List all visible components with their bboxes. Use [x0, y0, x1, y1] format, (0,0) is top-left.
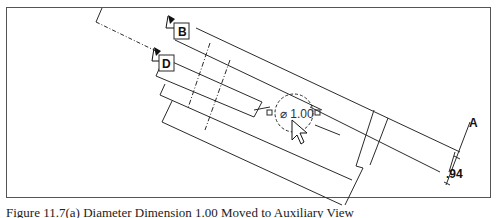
- figure-caption: Figure 11.7(a) Diameter Dimension 1.00 M…: [6, 206, 354, 218]
- step-edge: [345, 110, 374, 205]
- boss-bottom: [156, 76, 254, 117]
- callout-label-d: D: [162, 57, 171, 71]
- diameter-dimension-text[interactable]: ⌀ 1.00: [280, 107, 314, 121]
- center-line-1: [188, 43, 210, 108]
- body-upper-edge: [175, 40, 322, 110]
- section-label-a: A: [469, 116, 478, 130]
- construction-line: [96, 8, 102, 22]
- projection-line: [96, 22, 158, 52]
- centerline-right: [310, 107, 440, 172]
- boss-top: [168, 60, 262, 102]
- center-line-2: [205, 60, 230, 130]
- body-lower-edge: [160, 95, 352, 180]
- grip-handle-left[interactable]: [267, 110, 272, 115]
- callout-flags: [152, 15, 175, 61]
- auxiliary-view-drawing: B D ⌀ 1.00 .94 A: [0, 0, 498, 218]
- linear-dimension-text[interactable]: .94: [446, 167, 463, 181]
- mouse-cursor-icon: [292, 120, 307, 144]
- callout-label-b: B: [178, 25, 187, 39]
